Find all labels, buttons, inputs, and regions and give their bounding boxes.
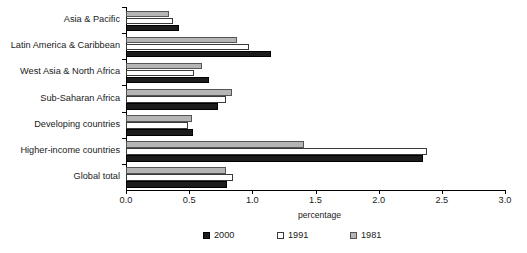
bar-1981 (126, 89, 232, 96)
y-tick (122, 59, 126, 60)
y-tick (122, 85, 126, 86)
bar-group (126, 7, 505, 33)
bar-group (126, 85, 505, 111)
x-tick-label: 0.0 (120, 196, 133, 205)
bar-2000 (126, 77, 209, 84)
category-label: West Asia & North Africa (0, 67, 120, 76)
bar-2000 (126, 25, 179, 32)
bar-2000 (126, 155, 423, 162)
y-tick (122, 33, 126, 34)
bar-1981 (126, 141, 304, 148)
legend-item[interactable]: 2000 (203, 231, 234, 240)
bar-group (126, 138, 505, 164)
bar-1981 (126, 167, 226, 174)
x-tick-label: 1.5 (309, 196, 322, 205)
bar-group (126, 33, 505, 59)
x-tick-label: 1.0 (246, 196, 259, 205)
x-tick (442, 190, 443, 194)
category-label: Asia & Pacific (0, 15, 120, 24)
category-label: Latin America & Caribbean (0, 41, 120, 50)
y-tick (122, 7, 126, 8)
x-tick-label: 0.5 (183, 196, 196, 205)
bar-2000 (126, 129, 193, 136)
bar-2000 (126, 103, 218, 110)
category-label: Sub-Saharan Africa (0, 94, 120, 103)
y-tick (122, 112, 126, 113)
bar-2000 (126, 181, 227, 188)
bar-1991 (126, 174, 233, 181)
plot-area (126, 7, 505, 190)
bar-1981 (126, 115, 192, 122)
legend-label: 2000 (214, 231, 234, 240)
bar-2000 (126, 51, 271, 58)
bar-group (126, 112, 505, 138)
y-tick (122, 138, 126, 139)
y-tick (122, 164, 126, 165)
x-tick (126, 190, 127, 194)
x-tick-label: 2.0 (372, 196, 385, 205)
x-tick-label: 3.0 (499, 196, 512, 205)
bar-1991 (126, 44, 249, 51)
category-label: Higher-income countries (0, 146, 120, 155)
legend-item[interactable]: 1981 (350, 231, 381, 240)
x-tick (379, 190, 380, 194)
white-square-swatch (277, 232, 284, 239)
category-label: Global total (0, 172, 120, 181)
x-axis-title: percentage (0, 211, 527, 220)
chart-legend: 200019911981 (0, 231, 527, 245)
legend-label: 1991 (288, 231, 308, 240)
category-label: Developing countries (0, 120, 120, 129)
bar-1991 (126, 148, 427, 155)
x-axis-title-text: percentage (298, 210, 341, 220)
legend-label: 1981 (361, 231, 381, 240)
black-square-swatch (203, 232, 210, 239)
bar-1991 (126, 122, 188, 129)
x-tick-label: 2.5 (435, 196, 448, 205)
bar-1981 (126, 11, 169, 18)
gray-square-swatch (350, 232, 357, 239)
x-tick (505, 190, 506, 194)
bar-group (126, 59, 505, 85)
legend-item[interactable]: 1991 (277, 231, 308, 240)
bar-1991 (126, 70, 194, 77)
x-tick (189, 190, 190, 194)
bar-1981 (126, 37, 237, 44)
x-tick (252, 190, 253, 194)
bar-1981 (126, 63, 202, 70)
bar-group (126, 164, 505, 190)
x-tick (316, 190, 317, 194)
bar-chart: Asia & PacificLatin America & CaribbeanW… (0, 0, 527, 253)
bar-1991 (126, 96, 226, 103)
bar-1991 (126, 18, 173, 25)
